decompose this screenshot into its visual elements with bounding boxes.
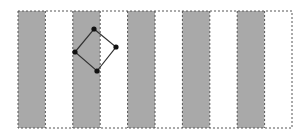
stripe-group [18, 11, 292, 128]
vertex-bottom [94, 68, 99, 73]
shaded-stripe [182, 11, 209, 128]
blank-stripe [265, 11, 292, 128]
blank-stripe [100, 11, 127, 128]
blank-stripe [210, 11, 237, 128]
shaded-stripe [237, 11, 264, 128]
striped-diagram [0, 0, 308, 137]
vertex-left [72, 49, 77, 54]
vertex-top [91, 26, 96, 31]
blank-stripe [45, 11, 72, 128]
blank-stripe [155, 11, 182, 128]
vertex-right [113, 44, 118, 49]
shaded-stripe [128, 11, 155, 128]
shaded-stripe [18, 11, 45, 128]
